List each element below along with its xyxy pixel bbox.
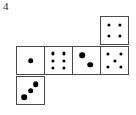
face-top-above-fourth [100,16,129,45]
die-pip [21,94,27,100]
face-row-fourth [100,46,129,75]
face-row-first [16,46,45,75]
face-bottom-below-first [16,76,45,105]
die-pip [28,58,34,64]
die-pip [118,24,121,27]
die-pip [119,52,122,55]
die-pip [108,24,111,27]
face-row-second [44,46,73,75]
die-pip [62,66,65,69]
die-pip [79,52,85,58]
die-pip [52,59,55,62]
die-pip [62,59,65,62]
die-pip [33,81,39,87]
die-pip [118,34,121,37]
die-pip [107,65,110,68]
die-pip [107,52,110,55]
cube-net-diagram [0,0,136,115]
die-pip [28,88,34,94]
die-pip [62,52,65,55]
face-row-third [72,46,101,75]
die-pip [52,66,55,69]
die-pip [87,62,93,68]
die-pip [108,34,111,37]
die-pip [119,65,122,68]
die-pip [52,52,55,55]
die-pip [113,59,116,62]
